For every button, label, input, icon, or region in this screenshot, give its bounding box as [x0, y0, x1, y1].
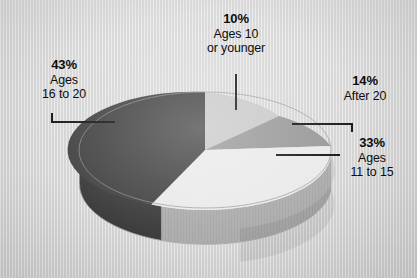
callout-label-line1-ages-11-to-15: Ages — [330, 151, 414, 166]
callout-after-20: 14% After 20 — [318, 74, 412, 103]
callout-ages-16-to-20: 43% Ages 16 to 20 — [8, 58, 120, 102]
callout-label-line2-ages-16-to-20: 16 to 20 — [8, 87, 120, 102]
callout-percent-ages-10-or-younger: 10% — [168, 12, 304, 27]
callout-label-line1-ages-16-to-20: Ages — [8, 73, 120, 88]
callout-label-line2-ages-10-or-younger: or younger — [168, 41, 304, 56]
callout-percent-ages-16-to-20: 43% — [8, 58, 120, 73]
pie-chart-figure: 10% Ages 10 or younger 14% After 20 33% … — [0, 0, 417, 278]
callout-label-line1-after-20: After 20 — [318, 89, 412, 104]
callout-ages-11-to-15: 33% Ages 11 to 15 — [330, 136, 414, 180]
callout-label-line1-ages-10-or-younger: Ages 10 — [168, 27, 304, 42]
callout-label-line2-ages-11-to-15: 11 to 15 — [330, 165, 414, 180]
callout-percent-ages-11-to-15: 33% — [330, 136, 414, 151]
callout-percent-after-20: 14% — [318, 74, 412, 89]
callout-ages-10-or-younger: 10% Ages 10 or younger — [168, 12, 304, 56]
